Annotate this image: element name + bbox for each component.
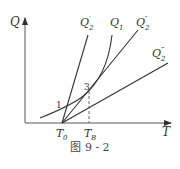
y-axis-label: Q (10, 15, 20, 29)
curve-q2-triple-prime (62, 63, 168, 123)
label-q2-double-prime: Q 2 ″ (136, 15, 150, 32)
tick-tb: T B (84, 127, 96, 142)
svg-text:Q: Q (80, 16, 89, 29)
curve-q2-prime (62, 35, 88, 123)
point-label-3: 3 (84, 82, 90, 92)
svg-text:Q: Q (110, 16, 119, 29)
svg-text:″: ″ (145, 15, 148, 23)
svg-text:Q: Q (152, 47, 161, 60)
svg-text:0: 0 (63, 134, 68, 142)
figure-caption: 图 9 - 2 (70, 141, 109, 154)
label-q2-triple-prime: Q 2 ‴ (152, 46, 166, 63)
svg-text:2: 2 (88, 24, 94, 32)
point-label-1: 1 (56, 100, 62, 110)
svg-text:‴: ‴ (161, 46, 165, 54)
svg-text:2: 2 (144, 24, 150, 32)
label-q2-prime: Q 2 ′ (80, 15, 94, 32)
label-q1: Q 1 (110, 16, 123, 32)
svg-text:1: 1 (119, 24, 123, 32)
svg-text:′: ′ (89, 15, 91, 23)
svg-text:Q: Q (136, 16, 145, 29)
svg-text:2: 2 (160, 55, 166, 63)
figure-canvas: Q T T 0 T B Q 2 ′ Q 1 Q 2 ″ Q 2 ‴ 1 3 图 … (0, 0, 180, 169)
x-axis-label: T (162, 125, 171, 139)
tick-t0: T 0 (56, 127, 68, 142)
